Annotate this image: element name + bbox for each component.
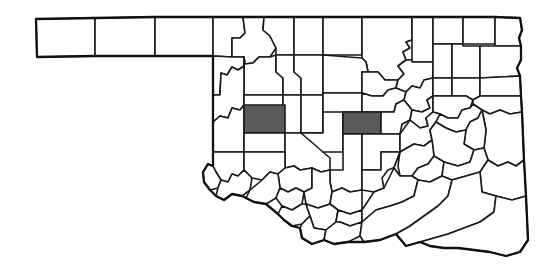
county-kingfisher[interactable] <box>301 95 323 133</box>
oklahoma-county-map: Oklahoma county map <box>0 0 559 275</box>
county-beaver[interactable] <box>155 17 213 56</box>
county-texas[interactable] <box>95 17 155 56</box>
county-wagoner[interactable] <box>433 78 452 96</box>
county-delaware[interactable] <box>480 46 521 78</box>
map-container: Oklahoma county map <box>0 0 559 275</box>
county-washita[interactable] <box>244 133 285 152</box>
county-oklahoma-highlighted[interactable] <box>343 112 381 134</box>
county-mayes[interactable] <box>452 44 480 78</box>
county-kay[interactable] <box>323 17 362 55</box>
county-rogers[interactable] <box>433 44 452 78</box>
county-adair[interactable] <box>480 76 521 96</box>
county-ottawa[interactable] <box>495 17 522 46</box>
county-nowata[interactable] <box>433 17 463 44</box>
county-craig[interactable] <box>463 17 495 44</box>
county-leflore[interactable] <box>482 110 524 166</box>
county-grant[interactable] <box>294 17 323 55</box>
county-cimarron[interactable] <box>36 18 95 57</box>
county-custer-highlighted[interactable] <box>244 105 285 133</box>
county-layer <box>36 17 528 256</box>
